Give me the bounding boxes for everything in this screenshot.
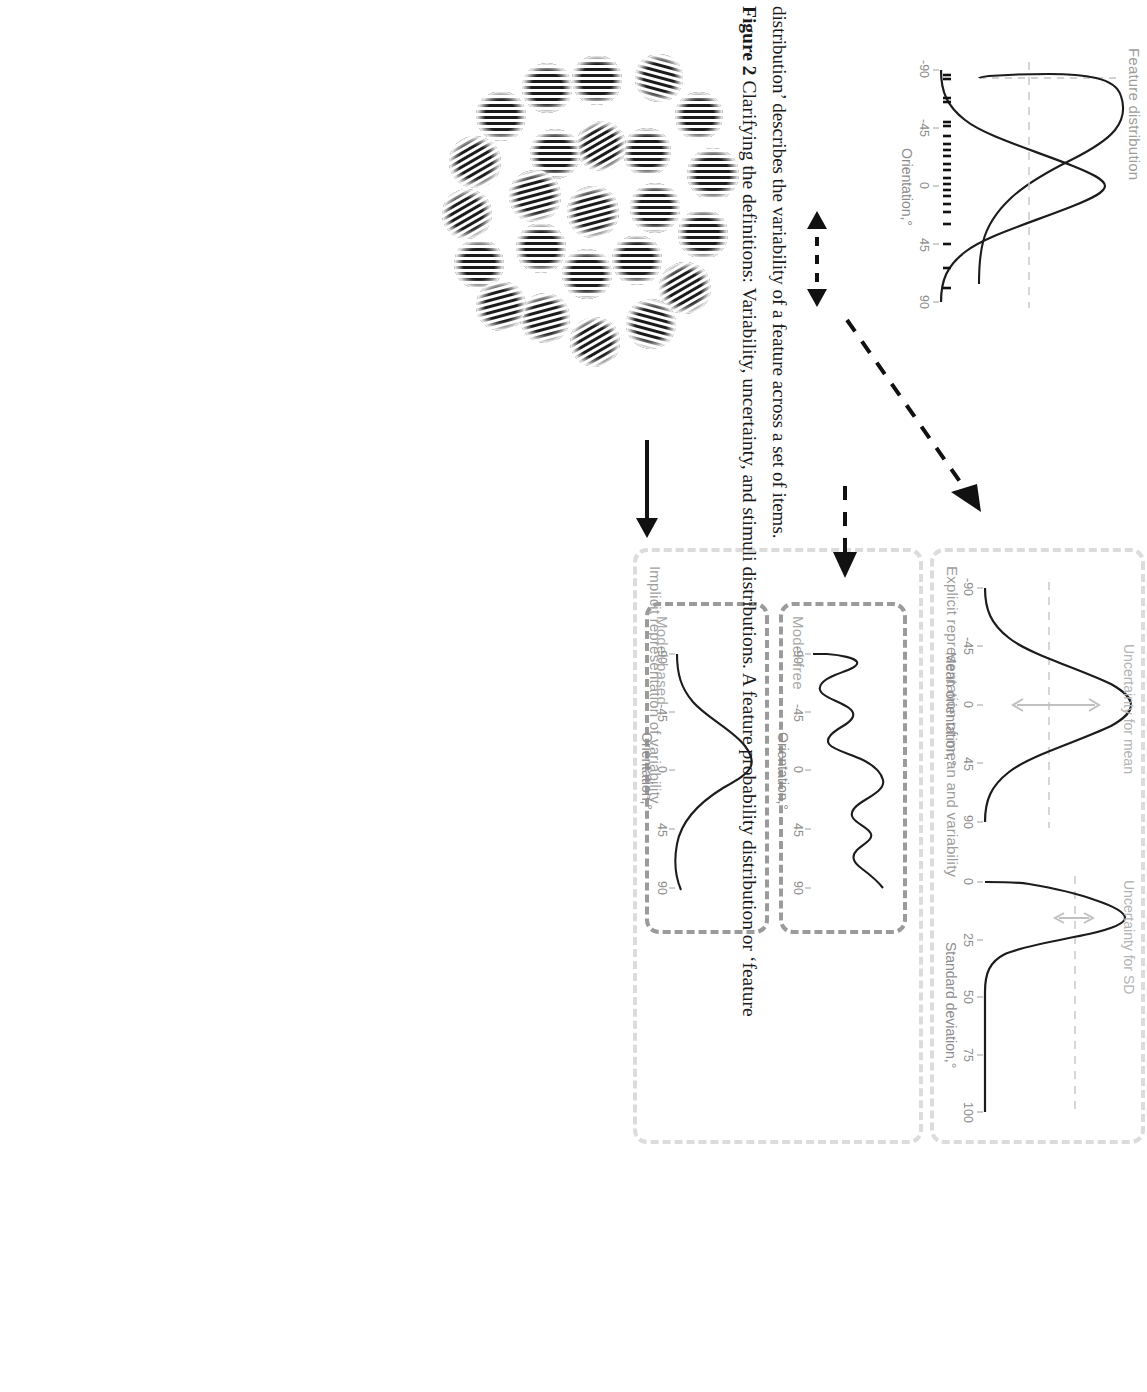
uncertainty-for-sd-label: Uncertainty for SD: [1121, 880, 1137, 994]
model-based-axis-ticks: [669, 654, 675, 888]
feature-distribution-group: -90 -45 0 45 90 Orientation,° Feature di…: [907, 40, 1137, 340]
uncertainty-mean-arrow: [1013, 699, 1099, 711]
model-free-wiggly-path: [813, 654, 883, 888]
figure-caption: Figure 2 Clarifying the definitions: Var…: [738, 0, 813, 1392]
feature-dist-svg: [907, 40, 1137, 340]
caption-line-1: Figure 2 Clarifying the definitions: Var…: [738, 6, 760, 1017]
mean-axis-ticks: [977, 588, 983, 822]
mean-xtick-3: 45: [961, 757, 975, 771]
gabor-patch-array: [427, 56, 747, 386]
sd-axis-ticks: [977, 882, 983, 1112]
arrowhead: [951, 484, 981, 512]
modelbased-xtick-2: 0: [655, 766, 669, 773]
mean-xtick-0: -90: [961, 578, 975, 596]
mean-xtick-4: 90: [961, 815, 975, 829]
feature-rug-samples: [943, 75, 951, 288]
modelbased-xtick-1: -45: [655, 704, 669, 722]
arrow-stimulus-to-implicit: [617, 430, 677, 560]
gabor-patches: [442, 54, 739, 367]
feature-axis-ticks: [933, 70, 939, 302]
arrow-to-model-based: [819, 478, 869, 608]
modelbased-xtick-3: 45: [655, 823, 669, 837]
arrowhead: [636, 518, 658, 538]
arrowhead: [833, 552, 857, 578]
sd-xtick-0: 0: [961, 878, 975, 885]
feature-xtick-0: -90: [917, 60, 931, 78]
sd-xtick-2: 50: [961, 990, 975, 1004]
sd-xtick-3: 75: [961, 1048, 975, 1062]
gabor-array-svg: [427, 56, 747, 386]
explicit-sd-plot: 0 25 50 75 100 Standard deviation,° Unce…: [955, 862, 1135, 1132]
feature-xtick-2: 0: [917, 182, 931, 189]
caption-figure-label: Figure 2: [739, 6, 760, 76]
sd-xtick-1: 25: [961, 933, 975, 947]
mean-xaxis-label: Mean orientation,°: [943, 652, 959, 766]
explicit-mean-svg: [955, 566, 1135, 846]
modelbased-xtick-0: -90: [655, 646, 669, 664]
explicit-mean-plot: -90 -45 0 45 90 Mean orientation,° Uncer…: [955, 566, 1135, 846]
feature-xaxis-label: Orientation,°: [899, 148, 915, 226]
mean-xtick-2: 0: [961, 701, 975, 708]
sd-narrow-gaussian-path: [985, 882, 1125, 1112]
feature-xtick-1: -45: [917, 119, 931, 137]
feature-distribution-title: Feature distribution: [1126, 48, 1143, 180]
sd-xtick-4: 100: [961, 1102, 975, 1123]
caption-line-2: distribution’ describes the variability …: [768, 6, 790, 539]
caption-text-1: Clarifying the definitions: Variability,…: [739, 80, 760, 1016]
explicit-sd-svg: [955, 862, 1135, 1132]
feature-xtick-3: 45: [917, 238, 931, 252]
uncertainty-for-mean-label: Uncertainty for mean: [1121, 644, 1137, 774]
uncertainty-sd-arrow: [1055, 913, 1093, 923]
sd-xaxis-label: Standard deviation,°: [943, 942, 959, 1068]
modelbased-xaxis-label: Orientation,°: [639, 732, 655, 810]
mean-xtick-1: -45: [961, 637, 975, 655]
modelbased-xtick-4: 90: [655, 881, 669, 895]
feature-gaussian-path: [941, 70, 1105, 302]
